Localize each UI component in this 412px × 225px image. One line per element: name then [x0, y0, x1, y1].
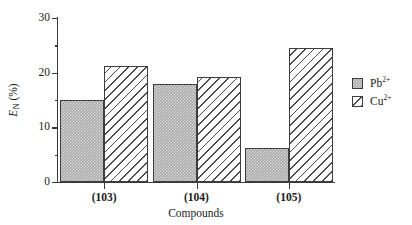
y-tick-label: 30 [39, 12, 51, 24]
y-tick-label: 0 [44, 176, 50, 188]
y-axis-title-base: E [7, 110, 19, 117]
bar-chart-figure: 0102030 (103)(104)(105) EN (%) Compounds… [0, 0, 412, 225]
bar-pb2-104 [153, 84, 197, 182]
y-axis-title: EN (%) [7, 83, 21, 116]
legend-label-cu: Cu2+ [370, 95, 391, 107]
y-tick-label: 20 [39, 67, 51, 79]
bar-cu2-105 [289, 48, 333, 182]
legend-item-pb[interactable]: Pb2+ [352, 77, 391, 92]
plot-area: 0102030 [58, 18, 335, 182]
legend-swatch-pb [352, 78, 363, 89]
bar-cu2-103 [104, 66, 148, 182]
x-category-label-104: (104) [184, 191, 209, 203]
y-tick-mark [52, 127, 58, 128]
y-tick-minor [55, 45, 59, 46]
bar-pb2-105 [245, 148, 289, 182]
y-tick-mark [52, 18, 58, 19]
bar-pb2-103 [60, 100, 104, 182]
y-tick-minor [55, 100, 59, 101]
y-axis-title-subscript: N [11, 103, 21, 109]
y-axis-title-unit: (%) [7, 83, 19, 103]
x-axis-ticks [58, 183, 335, 191]
y-tick-mark [52, 73, 58, 74]
chart-legend: Pb2+Cu2+ [352, 77, 391, 113]
y-tick-minor [55, 155, 59, 156]
legend-label-pb: Pb2+ [370, 77, 390, 89]
x-tick-mark [104, 183, 105, 189]
x-axis-title: Compounds [168, 207, 224, 219]
bar-cu2-104 [197, 77, 241, 183]
legend-swatch-cu [352, 96, 363, 107]
x-category-label-105: (105) [276, 191, 301, 203]
x-tick-mark [289, 183, 290, 189]
legend-item-cu[interactable]: Cu2+ [352, 95, 391, 110]
x-category-label-103: (103) [92, 191, 117, 203]
y-tick-label: 10 [39, 122, 51, 134]
x-tick-mark [197, 183, 198, 189]
